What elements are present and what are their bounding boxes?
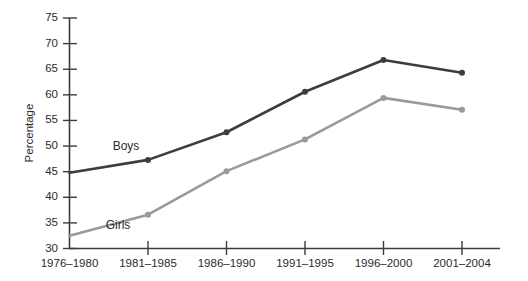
y-tick-label: 55: [45, 113, 58, 125]
y-tick-group: 30354045505560657075: [45, 11, 77, 254]
y-tick-label: 40: [45, 190, 58, 202]
data-point-girls-5: [459, 107, 465, 113]
data-point-girls-3: [302, 136, 308, 142]
x-tick-label: 1986–1990: [198, 257, 256, 269]
y-tick-label: 30: [45, 242, 58, 254]
data-point-girls-2: [224, 168, 230, 174]
x-tick-label: 1996–2000: [355, 257, 413, 269]
y-tick-label: 65: [45, 62, 58, 74]
y-tick-label: 35: [45, 216, 58, 228]
data-point-boys-2: [224, 129, 230, 135]
x-tick-label: 1976–1980: [41, 257, 99, 269]
data-point-boys-4: [381, 57, 387, 63]
data-point-boys-1: [145, 157, 151, 163]
x-tick-label: 1981–1985: [119, 257, 177, 269]
data-point-boys-5: [459, 70, 465, 76]
series-label-boys: Boys: [113, 139, 140, 153]
series-line-girls: [70, 98, 463, 236]
y-axis-title: Percentage: [23, 104, 35, 163]
y-tick-label: 60: [45, 88, 58, 100]
data-point-boys-3: [302, 89, 308, 95]
x-tick-group: 1976–19801981–19851986–19901991–19951996…: [41, 241, 492, 269]
x-tick-label: 1991–1995: [276, 257, 334, 269]
data-point-girls-4: [381, 95, 387, 101]
series-label-girls: Girls: [106, 218, 131, 232]
line-chart: 30354045505560657075 1976–19801981–19851…: [0, 0, 528, 281]
y-tick-label: 75: [45, 11, 58, 23]
y-tick-label: 50: [45, 139, 58, 151]
data-point-girls-1: [145, 212, 151, 218]
x-tick-label: 2001–2004: [433, 257, 491, 269]
y-tick-label: 70: [45, 37, 58, 49]
chart-canvas: 30354045505560657075 1976–19801981–19851…: [0, 0, 528, 281]
y-tick-label: 45: [45, 165, 58, 177]
